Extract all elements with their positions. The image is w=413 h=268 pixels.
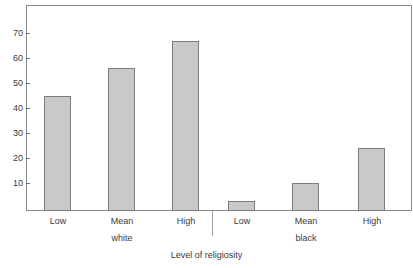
x-category-label: Mean bbox=[95, 216, 149, 226]
y-tick-mark bbox=[26, 108, 30, 109]
y-tick-label-text: 70 bbox=[1, 29, 23, 38]
x-category-label: Mean bbox=[279, 216, 333, 226]
x-category-label: Low bbox=[215, 216, 269, 226]
bar bbox=[172, 41, 199, 211]
bar-chart: 70 60 50 40 30 20 10 Low Mean High Low M… bbox=[0, 0, 413, 268]
y-tick-mark bbox=[26, 133, 30, 134]
y-tick-label-text: 30 bbox=[1, 129, 23, 138]
y-tick-mark bbox=[26, 183, 30, 184]
y-tick-mark bbox=[26, 33, 30, 34]
y-tick-label: 30 bbox=[0, 129, 23, 138]
y-tick-label: 40 bbox=[0, 104, 23, 113]
y-tick-label: 20 bbox=[0, 154, 23, 163]
bar bbox=[228, 201, 255, 211]
bar bbox=[44, 96, 71, 211]
y-tick-label: 70 bbox=[0, 29, 23, 38]
y-tick-label-text: 40 bbox=[1, 104, 23, 113]
x-axis-title: Level of religiosity bbox=[0, 250, 413, 260]
plot-area-frame bbox=[26, 5, 412, 211]
y-tick-mark bbox=[26, 158, 30, 159]
x-category-label: Low bbox=[31, 216, 85, 226]
y-tick-label-text: 60 bbox=[1, 54, 23, 63]
y-tick-label: 60 bbox=[0, 54, 23, 63]
y-tick-label-text: 20 bbox=[1, 154, 23, 163]
bar bbox=[292, 183, 319, 211]
y-tick-mark bbox=[26, 83, 30, 84]
y-tick-label-text: 50 bbox=[1, 79, 23, 88]
y-tick-mark bbox=[26, 58, 30, 59]
x-group-label-white: white bbox=[95, 233, 149, 243]
bar bbox=[358, 148, 385, 211]
y-tick-label: 10 bbox=[0, 179, 23, 188]
y-tick-label-text: 10 bbox=[1, 179, 23, 188]
x-group-label-black: black bbox=[279, 233, 333, 243]
y-tick-label: 50 bbox=[0, 79, 23, 88]
x-category-label: High bbox=[159, 216, 213, 226]
bar bbox=[108, 68, 135, 211]
x-category-label: High bbox=[345, 216, 399, 226]
